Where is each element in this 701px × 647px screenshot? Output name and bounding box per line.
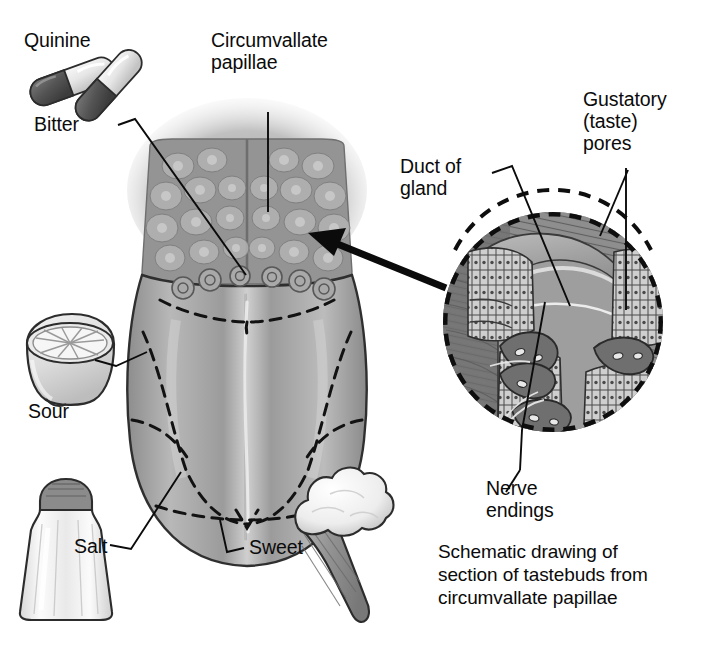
tastebud-section-inset bbox=[443, 190, 668, 436]
figure-caption: Schematic drawing of section of tastebud… bbox=[438, 540, 688, 609]
label-duct-of-gland: Duct of gland bbox=[400, 155, 461, 199]
label-salt: Salt bbox=[74, 535, 107, 557]
label-circumvallate-papillae: Circumvallate papillae bbox=[211, 29, 328, 73]
label-bitter: Bitter bbox=[34, 113, 79, 135]
label-gustatory-taste-pores: Gustatory (taste) pores bbox=[583, 88, 667, 154]
label-nerve-endings: Nerve endings bbox=[486, 477, 554, 521]
tongue-taste-map-figure: Quinine Bitter Circumvallate papillae So… bbox=[0, 0, 701, 647]
lemon-half-icon bbox=[27, 314, 114, 406]
label-quinine: Quinine bbox=[24, 29, 91, 51]
label-sweet: Sweet bbox=[249, 536, 303, 558]
label-sour: Sour bbox=[28, 400, 69, 422]
